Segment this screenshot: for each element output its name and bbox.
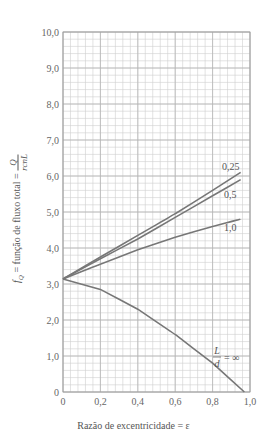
x-tick-label: 0,6 <box>169 396 182 407</box>
y-tick-label: 5,0 <box>47 207 60 218</box>
y-label-text: = função de fluxo total = <box>11 171 22 275</box>
y-tick-label: 3,0 <box>47 279 60 290</box>
x-tick-label: 0,4 <box>132 396 145 407</box>
y-label-fraction: QrcnL <box>8 154 29 171</box>
y-axis-label: fQ = função de fluxo total = QrcnL <box>8 109 29 329</box>
fraction-num: Q <box>8 154 18 171</box>
x-axis-label: Razão de excentricidade = ε <box>0 420 267 431</box>
curve-label: 0,25 <box>222 161 240 172</box>
flow-function-chart: 01,02,03,04,05,06,07,08,09,010,000,20,40… <box>0 0 267 437</box>
y-tick-label: 8,0 <box>47 99 60 110</box>
series-line-1 <box>63 180 241 279</box>
curve-label: 1,0 <box>224 222 237 233</box>
ld-infinity-label: = ∞ <box>224 352 239 363</box>
curve-label: 0,5 <box>224 189 237 200</box>
y-tick-label: 1,0 <box>47 351 60 362</box>
y-label-sub: Q <box>17 275 25 280</box>
grid <box>63 32 250 392</box>
y-tick-label: 7,0 <box>47 135 60 146</box>
tick-labels: 01,02,03,04,05,06,07,08,09,010,000,20,40… <box>42 27 257 408</box>
y-tick-label: 2,0 <box>47 315 60 326</box>
series-line-3 <box>63 279 244 392</box>
fraction-den: rcnL <box>18 154 29 171</box>
y-label-f: f <box>11 280 22 283</box>
x-tick-label: 0,2 <box>94 396 107 407</box>
curve-labels: 0,250,51,0Ld= ∞ <box>213 161 240 369</box>
ld-infinity-label: L <box>213 345 220 356</box>
y-tick-label: 9,0 <box>47 63 60 74</box>
y-tick-label: 10,0 <box>42 27 60 38</box>
y-tick-label: 4,0 <box>47 243 60 254</box>
x-tick-label: 0,8 <box>206 396 219 407</box>
y-tick-label: 0 <box>54 387 59 398</box>
y-tick-label: 6,0 <box>47 171 60 182</box>
x-tick-label: 0 <box>61 396 66 407</box>
x-tick-label: 1,0 <box>244 396 257 407</box>
